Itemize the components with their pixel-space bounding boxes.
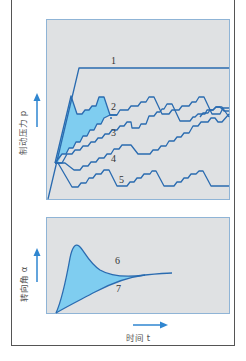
curve-label-4: 4: [111, 153, 116, 164]
y-axis-arrow-top: [34, 93, 41, 127]
curve-label-6: 6: [115, 255, 120, 266]
curve-label-1: 1: [111, 55, 116, 66]
curve-label-5: 5: [119, 174, 124, 185]
x-axis-label-time: 时间 t: [126, 333, 151, 343]
curve-label-7: 7: [116, 283, 121, 294]
y-axis-arrow-bottom: [34, 248, 41, 282]
y-axis-label-steering-angle: 转向角 α: [19, 266, 29, 302]
top-panel: 1 2 3 4 5: [47, 20, 230, 200]
curve-label-3: 3: [111, 127, 116, 138]
y-axis-label-brake-pressure: 制动压力 p: [18, 111, 28, 155]
curve-label-2: 2: [111, 101, 116, 112]
diagram-canvas: 1 2 3 4 5 制动压力 p 6 7 转向角 α 时间 t: [0, 0, 246, 361]
x-axis-arrow: [133, 322, 168, 329]
bottom-panel: 6 7: [47, 218, 230, 314]
